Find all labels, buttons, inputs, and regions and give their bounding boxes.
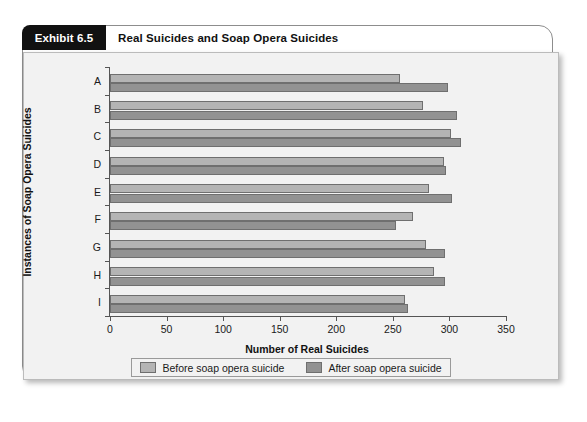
bar-h-before xyxy=(110,267,434,276)
x-tick-100 xyxy=(223,316,224,321)
y-tick-label-f: F xyxy=(95,213,101,225)
bar-group-c xyxy=(110,122,506,150)
y-axis-title: Instances of Soap Opera Suicides xyxy=(18,67,36,316)
bar-group-f xyxy=(110,205,506,233)
x-axis-title: Number of Real Suicides xyxy=(109,343,505,355)
bar-b-before xyxy=(110,101,423,110)
chart-card: Instances of Soap Opera Suicides ABCDEFG… xyxy=(23,52,559,380)
bar-d-after xyxy=(110,166,446,175)
chart-canvas: Instances of Soap Opera Suicides ABCDEFG… xyxy=(24,53,558,379)
chart-legend: Before soap opera suicide After soap ope… xyxy=(131,358,451,377)
bar-group-g xyxy=(110,233,506,261)
bar-g-after xyxy=(110,249,445,258)
y-tick-label-h: H xyxy=(93,269,101,281)
x-tick-label-50: 50 xyxy=(161,323,173,335)
exhibit-title-bar: Exhibit 6.5 Real Suicides and Soap Opera… xyxy=(22,25,553,50)
bar-group-a xyxy=(110,67,506,95)
x-tick-label-0: 0 xyxy=(107,323,113,335)
bar-f-before xyxy=(110,212,413,221)
x-tick-250 xyxy=(393,316,394,321)
x-tick-label-250: 250 xyxy=(384,323,402,335)
legend-item-after: After soap opera suicide xyxy=(306,362,441,374)
legend-swatch-before-icon xyxy=(140,362,156,373)
exhibit-title: Real Suicides and Soap Opera Suicides xyxy=(118,25,338,50)
bar-group-e xyxy=(110,178,506,206)
legend-label-after: After soap opera suicide xyxy=(328,362,441,374)
bar-a-before xyxy=(110,74,400,83)
bar-i-before xyxy=(110,295,405,304)
y-tick-label-e: E xyxy=(94,186,101,198)
y-tick-label-a: A xyxy=(94,75,101,87)
x-tick-label-100: 100 xyxy=(214,323,232,335)
x-tick-label-350: 350 xyxy=(497,323,515,335)
x-tick-label-300: 300 xyxy=(441,323,459,335)
x-tick-50 xyxy=(167,316,168,321)
legend-swatch-after-icon xyxy=(306,362,322,373)
plot-area: ABCDEFGHI050100150200250300350 xyxy=(109,67,506,317)
x-tick-label-200: 200 xyxy=(328,323,346,335)
y-axis-title-text: Instances of Soap Opera Suicides xyxy=(21,107,33,276)
x-tick-200 xyxy=(336,316,337,321)
legend-item-before: Before soap opera suicide xyxy=(140,362,284,374)
bar-b-after xyxy=(110,111,457,120)
bar-e-after xyxy=(110,194,452,203)
bar-a-after xyxy=(110,83,448,92)
bar-group-b xyxy=(110,95,506,123)
bar-e-before xyxy=(110,184,429,193)
x-tick-350 xyxy=(506,316,507,321)
bar-c-after xyxy=(110,138,461,147)
bar-i-after xyxy=(110,304,408,313)
y-tick-label-c: C xyxy=(93,130,101,142)
x-tick-0 xyxy=(110,316,111,321)
bar-group-h xyxy=(110,261,506,289)
bar-f-after xyxy=(110,221,396,230)
x-tick-label-150: 150 xyxy=(271,323,289,335)
x-tick-300 xyxy=(449,316,450,321)
y-tick-label-g: G xyxy=(93,241,101,253)
y-tick-label-d: D xyxy=(93,158,101,170)
exhibit-number-tag: Exhibit 6.5 xyxy=(22,25,106,50)
y-tick-label-i: I xyxy=(98,296,101,308)
bar-group-i xyxy=(110,288,506,316)
bar-c-before xyxy=(110,129,451,138)
bar-d-before xyxy=(110,157,444,166)
bar-g-before xyxy=(110,240,426,249)
legend-label-before: Before soap opera suicide xyxy=(162,362,284,374)
bar-h-after xyxy=(110,277,445,286)
x-tick-150 xyxy=(280,316,281,321)
bar-group-d xyxy=(110,150,506,178)
y-tick-label-b: B xyxy=(94,103,101,115)
